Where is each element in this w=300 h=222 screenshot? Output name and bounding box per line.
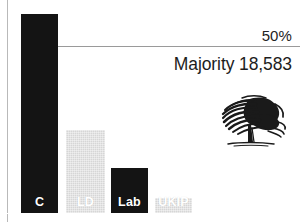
- bar-label-ukip: UKIP: [155, 196, 192, 209]
- bar-c[interactable]: C: [21, 14, 58, 213]
- bar-chart: 50% Majority 18,583: [0, 0, 300, 222]
- bar-label-ld: LD: [66, 196, 105, 209]
- bar-ld[interactable]: LD: [66, 130, 105, 213]
- bar-label-c: C: [21, 196, 58, 209]
- bars-layer: C LD Lab UKIP: [0, 0, 300, 222]
- bar-label-lab: Lab: [111, 196, 148, 209]
- x-axis-baseline: [7, 213, 300, 214]
- bar-ukip[interactable]: UKIP: [155, 198, 192, 213]
- bar-lab[interactable]: Lab: [111, 168, 148, 213]
